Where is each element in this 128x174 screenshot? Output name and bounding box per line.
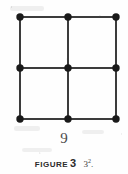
dot-bottom-right	[112, 115, 119, 122]
figure-caption: FIGURE332.	[0, 153, 128, 171]
dot-top-left	[16, 13, 23, 20]
dot-top-center	[64, 13, 71, 20]
dot-count-label: 9	[0, 130, 128, 146]
caption-figure-word: FIGURE	[35, 160, 68, 169]
scan-smudge-caption-left	[22, 148, 52, 152]
figure-page: 9 FIGURE332.	[0, 0, 128, 174]
dot-bottom-center	[64, 115, 71, 122]
dot-bottom-left	[16, 115, 23, 122]
caption-figure-number: 3	[70, 157, 76, 169]
dot-top-right	[112, 13, 119, 20]
figure-diagram-area	[0, 0, 128, 130]
caption-expression-period: .	[91, 159, 93, 169]
dot-middle-center	[64, 64, 71, 71]
dot-middle-left	[16, 64, 23, 71]
dot-lattice-diagram	[0, 0, 128, 130]
caption-expression: 32.	[83, 159, 93, 169]
dot-middle-right	[112, 64, 119, 71]
